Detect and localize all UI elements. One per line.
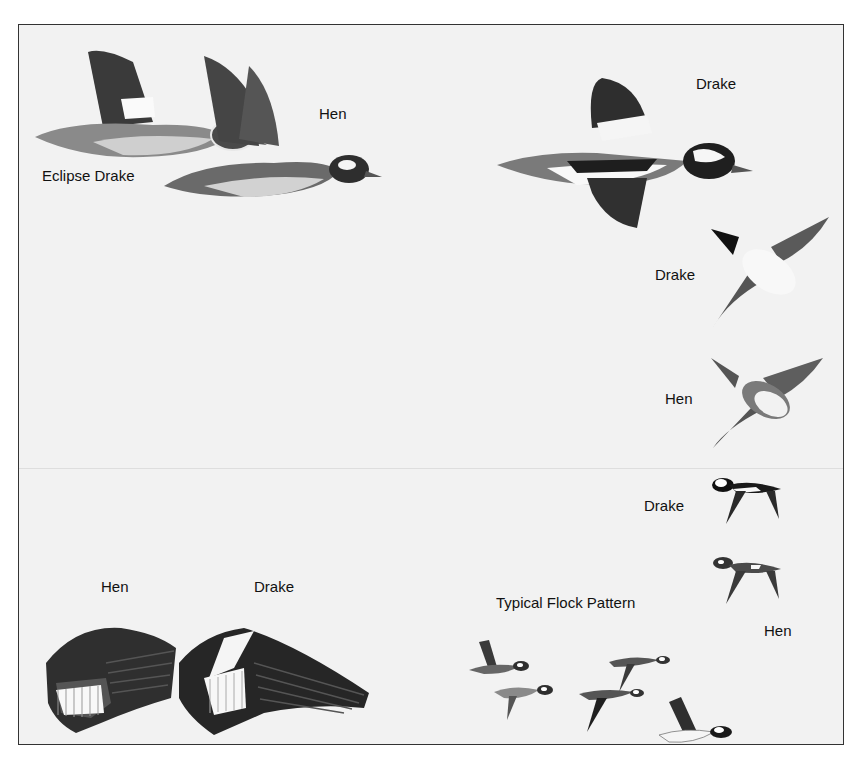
hen-wing-illustration	[36, 623, 176, 738]
drake-wing-illustration	[174, 623, 374, 738]
drake-underside-illustration	[711, 217, 831, 329]
drake-label: Drake	[696, 75, 736, 92]
hen-label: Hen	[319, 105, 347, 122]
wing-hen-label: Hen	[101, 578, 129, 595]
eclipse-drake-label: Eclipse Drake	[42, 167, 135, 184]
small-drake-label: Drake	[644, 497, 684, 514]
underside-drake-label: Drake	[655, 266, 695, 283]
hen-underside-illustration	[711, 358, 831, 450]
underside-hen-label: Hen	[665, 390, 693, 407]
flock-label: Typical Flock Pattern	[496, 594, 635, 611]
hen-small-illustration	[711, 557, 786, 605]
hen-side-illustration	[164, 51, 384, 191]
flock-illustration	[469, 632, 739, 742]
wing-drake-label: Drake	[254, 578, 294, 595]
illustration-plate: Hen Eclipse Drake Drake Drake	[18, 24, 844, 745]
page-fold-line	[19, 468, 843, 469]
drake-small-illustration	[711, 477, 786, 525]
small-hen-label: Hen	[764, 622, 792, 639]
